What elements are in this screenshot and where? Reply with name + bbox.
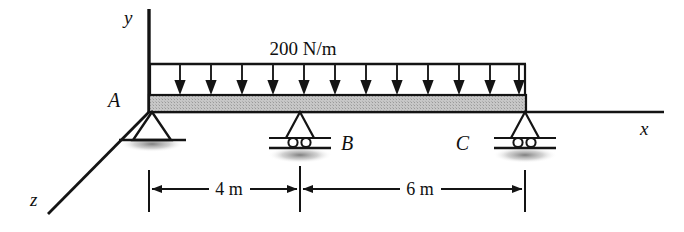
beam-body (149, 95, 526, 112)
support-b-triangle (286, 112, 314, 138)
support-a-triangle (133, 112, 171, 140)
load-arrow (453, 64, 464, 95)
load-arrow (422, 64, 433, 95)
load-arrow (236, 64, 247, 95)
load-arrow (205, 64, 216, 95)
support-c: C (456, 112, 557, 163)
support-c-shadow (493, 147, 557, 163)
x-axis-label: x (639, 118, 649, 139)
load-arrow (391, 64, 402, 95)
load-arrow (329, 64, 340, 95)
load-arrows (174, 64, 524, 95)
distributed-load-group: 200 N/m (149, 38, 526, 95)
support-c-roller-right (526, 138, 535, 147)
load-arrow (484, 64, 495, 95)
z-axis-line (48, 112, 149, 214)
load-arrow (513, 64, 524, 95)
support-c-label: C (456, 132, 470, 154)
support-b-label: B (341, 132, 353, 154)
load-arrow (174, 64, 185, 95)
support-b: B (268, 112, 353, 163)
diagram-canvas: y x z (0, 0, 684, 232)
load-arrow (298, 64, 309, 95)
support-b-roller-right (301, 138, 310, 147)
beam-diagram-figure: y x z (0, 0, 684, 232)
support-c-roller-left (513, 138, 522, 147)
z-axis-label: z (29, 189, 38, 210)
distributed-load-label: 200 N/m (269, 38, 336, 59)
support-c-triangle (511, 112, 539, 138)
dimension-4m-label: 4 m (215, 179, 243, 199)
load-arrow (267, 64, 278, 95)
load-arrow (360, 64, 371, 95)
dimension-6m: 6 m (303, 179, 522, 199)
dimension-6m-label: 6 m (406, 179, 434, 199)
dimension-group: 4 m 6 m (149, 166, 525, 212)
support-b-shadow (268, 147, 332, 163)
y-axis-label: y (122, 7, 133, 28)
beam (149, 95, 526, 112)
support-b-roller-left (288, 138, 297, 147)
dimension-4m: 4 m (152, 179, 297, 199)
support-a-label: A (106, 89, 121, 111)
